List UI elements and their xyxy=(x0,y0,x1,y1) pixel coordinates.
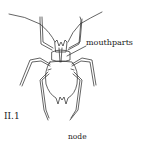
figure-number-label: II.1 xyxy=(4,112,20,121)
insect-drawing xyxy=(0,0,141,142)
right-midleg xyxy=(72,58,96,86)
leg-joints xyxy=(48,69,74,70)
left-antenna xyxy=(9,14,55,42)
abdomen xyxy=(46,61,78,104)
node-label: node xyxy=(68,133,87,141)
mouthparts-label: mouthparts xyxy=(86,39,133,47)
right-hindleg xyxy=(70,72,82,120)
right-foreleg xyxy=(68,17,82,50)
left-foreleg xyxy=(40,17,53,50)
left-hindleg xyxy=(40,72,49,120)
